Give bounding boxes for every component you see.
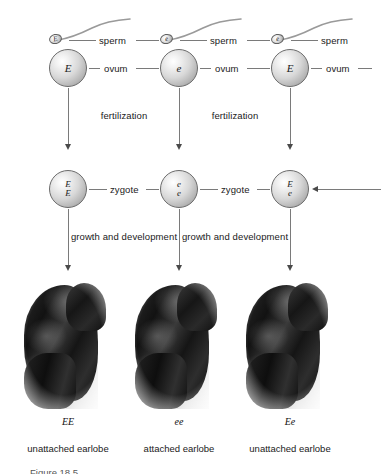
growth-arrowhead-1 [65,265,71,271]
sperm-allele-label: e [164,35,168,42]
leader-line-sperm-2b [247,40,270,41]
growth-arrow-line-1 [68,209,69,266]
zygote-allele-bottom-3: e [288,189,292,199]
earlobe-photo-2 [133,277,225,409]
phenotype-label-1: unattached earlobe [27,443,108,454]
label-ovum-2: ovum [215,63,239,74]
sperm-tail-1 [54,18,132,44]
leader-line-ovum-1b [136,68,159,69]
label-zygote-1: zygote [110,184,139,195]
growth-arrow-line-2 [179,209,180,266]
earlobe-photo-1 [22,277,114,409]
phenotype-label-3: unattached earlobe [249,443,330,454]
leader-line-zygote-2b [257,189,270,190]
phenotype-label-2: attached earlobe [144,443,215,454]
zygote-allele-bottom-2: e [177,189,181,199]
zygote-allele-bottom-1: E [65,189,71,199]
leader-line-ovum-1 [89,68,100,69]
leader-line-ovum-2b [247,68,270,69]
leader-line-zygote-1 [89,189,107,190]
genotype-label-3: Ee [285,416,296,427]
hair-front-shape [66,283,106,331]
label-growth-1: growth and development [71,231,177,242]
leader-line-ovum-2 [200,68,211,69]
hair-lower-shape [135,353,187,409]
hair-front-shape [288,283,328,331]
growth-arrowhead-3 [287,265,293,271]
ovum-cell-1: E [49,49,87,87]
zygote-cell-3: E e [271,170,309,208]
ovum-allele-label: E [65,63,72,73]
diagram-canvas: E E sperm ovum E E zygote EE unattached … [0,0,381,474]
fertilization-arrow-line-3 [290,88,291,145]
earlobe-photo-3 [244,277,336,409]
incoming-connector-line [318,189,381,190]
leader-line-ovum-3b [358,68,372,69]
hair-front-shape [177,283,217,331]
sperm-allele-label: e [275,35,279,42]
fertilization-arrow-line-1 [68,88,69,145]
ovum-allele-label: E [287,63,294,73]
fertilization-arrowhead-2 [176,144,182,150]
sperm-tail-2 [165,18,243,44]
growth-arrowhead-2 [176,265,182,271]
leader-line-sperm-1b [136,40,159,41]
genotype-label-2: ee [175,416,184,427]
fertilization-arrow-line-2 [179,88,180,145]
leader-line-zygote-1b [146,189,159,190]
ovum-cell-2: e [160,49,198,87]
leader-line-ovum-3 [311,68,322,69]
label-fertilization-1: fertilization [101,110,148,121]
fertilization-arrowhead-3 [287,144,293,150]
fertilization-arrowhead-1 [65,144,71,150]
growth-arrow-line-3 [290,209,291,266]
hair-lower-shape [24,353,76,409]
incoming-arrowhead [312,186,318,192]
label-growth-2: growth and development [182,231,288,242]
label-ovum-1: ovum [104,63,128,74]
ovum-allele-label: e [177,63,182,73]
sperm-tail-3 [276,18,354,44]
label-fertilization-2: fertilization [212,110,259,121]
zygote-cell-1: E E [49,170,87,208]
figure-caption: Figure 18.5 [30,467,360,474]
zygote-cell-2: e e [160,170,198,208]
sperm-allele-label: E [53,35,59,43]
ovum-cell-3: E [271,49,309,87]
genotype-label-1: EE [62,416,74,427]
leader-line-zygote-2 [200,189,218,190]
label-zygote-2: zygote [221,184,250,195]
label-ovum-3: ovum [326,63,350,74]
hair-lower-shape [246,353,298,409]
